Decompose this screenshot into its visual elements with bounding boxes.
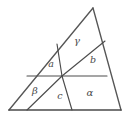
triangle-figure-svg — [0, 0, 133, 129]
region-label-a-italic: a — [48, 59, 54, 69]
outline-right-side — [93, 8, 121, 110]
cevian-to-right-side — [62, 41, 105, 76]
region-label-alpha: α — [87, 88, 94, 98]
cevian-lower-right — [62, 76, 72, 110]
region-label-b: b — [90, 55, 96, 65]
region-label-c: c — [57, 91, 62, 101]
region-label-gamma: γ — [74, 36, 80, 46]
triangle-figure: a γ b β c α — [0, 0, 133, 129]
region-label-beta: β — [32, 86, 38, 96]
